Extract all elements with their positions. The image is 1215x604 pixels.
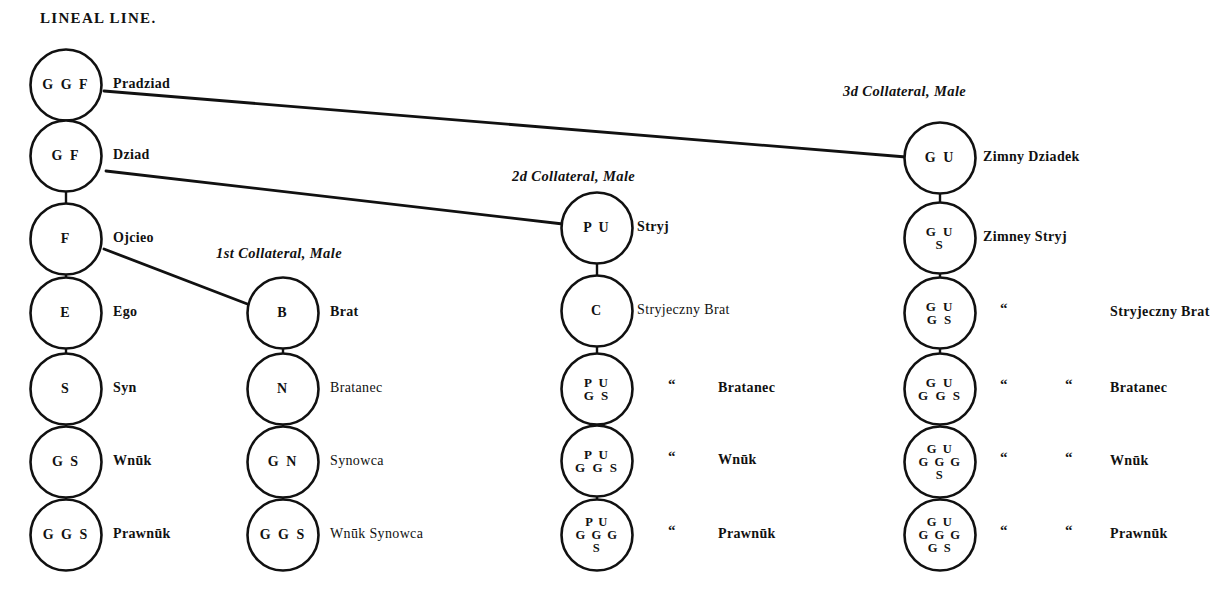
node-label: Syn (113, 380, 137, 396)
node-label: Bratanec (330, 380, 383, 396)
node-circle[interactable] (905, 500, 976, 571)
node-circle[interactable] (905, 278, 976, 349)
node-label: Brat (330, 304, 359, 320)
ditto-mark: “ (1065, 523, 1073, 538)
column-header-second-collateral: 2d Collateral, Male (512, 168, 635, 185)
node-circle[interactable] (905, 123, 976, 194)
ditto-mark: “ (668, 377, 676, 392)
node-label: Synowca (330, 453, 384, 469)
node-label: Wnūk (1110, 453, 1149, 469)
ditto-mark: “ (1000, 377, 1008, 392)
node-label: Wnūk Synowca (330, 526, 423, 542)
node-label: Zimney Stryj (983, 229, 1067, 245)
node-circle[interactable] (31, 121, 102, 192)
node-circle[interactable] (562, 276, 633, 347)
column-header-first-collateral: 1st Collateral, Male (216, 245, 342, 262)
col3-header-text: 2d Collateral, Male (512, 168, 635, 184)
connector-gf-to-pu (106, 171, 563, 224)
node-label: Dziad (113, 147, 150, 163)
node-circle[interactable] (31, 354, 102, 425)
node-circle[interactable] (905, 427, 976, 498)
node-label: Prawnūk (113, 526, 171, 542)
col4-header-text: 3d Collateral, Male (843, 83, 966, 99)
node-label: Ego (113, 304, 137, 320)
node-circle[interactable] (31, 500, 102, 571)
node-label: Zimny Dziadek (983, 149, 1080, 165)
ditto-mark: “ (1065, 450, 1073, 465)
node-label: Bratanec (718, 380, 775, 396)
ditto-mark: “ (1000, 301, 1008, 316)
node-circle[interactable] (248, 500, 319, 571)
diagram-canvas: G G FPradziadG FDziadFOjcieoEEgoSSynG SW… (0, 0, 1215, 604)
node-circle[interactable] (31, 50, 102, 121)
ditto-mark: “ (1065, 377, 1073, 392)
page-title: LINEAL LINE. (40, 10, 156, 27)
node-circle[interactable] (31, 278, 102, 349)
node-label: Ojcieo (113, 230, 154, 246)
node-label: Prawnūk (718, 526, 776, 542)
col2-header-text: 1st Collateral, Male (216, 245, 342, 261)
ditto-mark: “ (1000, 523, 1008, 538)
node-circle[interactable] (905, 354, 976, 425)
connector-ggf-to-gu (104, 91, 906, 157)
node-circle[interactable] (31, 427, 102, 498)
node-circle[interactable] (248, 427, 319, 498)
node-circle[interactable] (562, 426, 633, 497)
ditto-mark: “ (1000, 450, 1008, 465)
node-label: Wnūk (113, 453, 152, 469)
ditto-mark: “ (668, 523, 676, 538)
node-label: Bratanec (1110, 380, 1167, 396)
node-circle[interactable] (562, 500, 633, 571)
node-label: Stryjeczny Brat (637, 302, 730, 318)
diagram-linework (0, 0, 1215, 604)
node-label: Prawnūk (1110, 526, 1168, 542)
node-circle[interactable] (562, 354, 633, 425)
node-circle[interactable] (248, 354, 319, 425)
node-label: Stryjeczny Brat (1110, 304, 1210, 320)
node-circle[interactable] (248, 278, 319, 349)
node-label: Wnūk (718, 452, 757, 468)
node-label: Pradziad (113, 76, 170, 92)
node-circle[interactable] (562, 193, 633, 264)
node-circle[interactable] (905, 203, 976, 274)
node-circle[interactable] (31, 204, 102, 275)
node-label: Stryj (637, 219, 669, 235)
column-header-third-collateral: 3d Collateral, Male (843, 83, 966, 100)
ditto-mark: “ (668, 449, 676, 464)
